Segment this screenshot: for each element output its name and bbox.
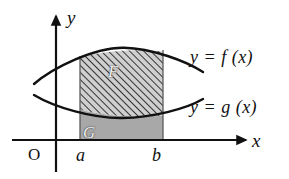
- tick-label-a: a: [76, 146, 85, 164]
- curve-label-f: y = f (x): [190, 48, 253, 66]
- y-axis-label: y: [67, 8, 75, 27]
- area-between-curves-diagram: [0, 0, 289, 179]
- curve-label-g: y = g (x): [190, 98, 257, 116]
- region-F-fill: [78, 44, 166, 120]
- region-label-F: F: [108, 63, 118, 80]
- x-axis-label: x: [252, 131, 260, 150]
- figure-container: y x O a b y = f (x) y = g (x) F G: [0, 0, 289, 179]
- tick-label-b: b: [152, 146, 161, 164]
- region-label-G: G: [83, 124, 95, 141]
- origin-label: O: [28, 146, 40, 163]
